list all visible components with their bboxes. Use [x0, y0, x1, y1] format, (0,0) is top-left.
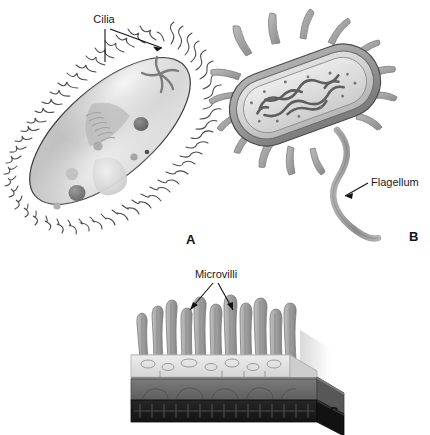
panel-letter-a: A	[186, 232, 196, 247]
microvilli-group	[137, 295, 296, 360]
apical-front-face	[131, 355, 290, 377]
paramecium-body	[6, 32, 214, 230]
flagellum-label: Flagellum	[371, 176, 419, 188]
small-vesicle-1	[130, 153, 137, 160]
cilia-label: Cilia	[93, 13, 115, 25]
panel-letter-b: B	[409, 229, 418, 244]
micronucleus	[145, 150, 150, 155]
small-vesicle-2	[93, 141, 102, 150]
panel-c-microvilli: Microvilli C	[131, 268, 344, 435]
panel-b-bacterium: Flagellum B	[209, 9, 419, 244]
figure-root: Cilia A	[0, 0, 430, 435]
panel-a-paramecium: Cilia A	[4, 13, 222, 247]
basal-layer	[131, 400, 344, 435]
flagellum-callout: Flagellum	[345, 176, 419, 199]
food-vacuole-2	[69, 185, 86, 201]
figure-canvas: Cilia A	[0, 0, 430, 435]
macronucleus	[134, 117, 149, 131]
food-vacuole-3	[53, 202, 60, 209]
food-vacuole-1	[66, 168, 78, 180]
panel-letter-c: C	[329, 404, 339, 419]
microvilli-label: Microvilli	[195, 268, 237, 280]
